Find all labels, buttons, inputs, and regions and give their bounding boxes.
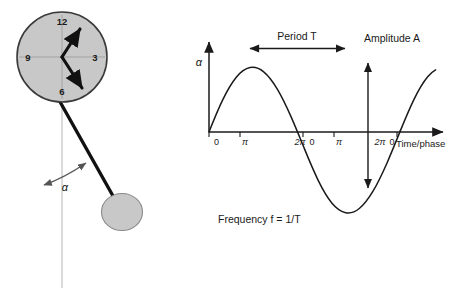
pendulum-assembly: 12 3 6 9 α [17,12,143,288]
clock-numeral-12: 12 [57,16,68,27]
x-tick-label-pi-first: π [242,137,249,147]
x-tick-label-2pi-first: 2π [293,137,306,147]
sine-curve-tail [400,70,435,131]
x-tick-label-0-third: 0 [389,137,394,147]
clock-numeral-6: 6 [59,86,64,97]
amplitude-label: Amplitude A [364,32,420,44]
angle-alpha-label: α [62,181,69,193]
clock-numeral-9: 9 [25,52,30,63]
clock-numeral-3: 3 [92,52,97,63]
x-tick-label-pi-second: π [336,137,343,147]
frequency-formula-label: Frequency f = 1/T [218,213,301,225]
x-tick-label-0-first: 0 [214,137,219,147]
pendulum-bob [102,194,143,231]
period-label: Period T [277,30,317,42]
physics-diagram-figure: 12 3 6 9 α α Time/phase [0,0,464,295]
graph-x-axis-label: Time/phase [396,138,445,149]
x-tick-label-0-second: 0 [309,137,314,147]
x-tick-label-2pi-second: 2π [373,137,386,147]
wave-graph: α Time/phase 0 π 2π 0 π 2π 0 [196,30,445,225]
graph-y-axis-label: α [196,56,203,68]
